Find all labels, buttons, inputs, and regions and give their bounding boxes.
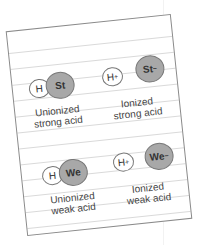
group-label: Unionized weak acid bbox=[32, 188, 114, 218]
weak-acid-anion-atom: We bbox=[57, 158, 89, 188]
group-label: Ionized strong acid bbox=[96, 93, 178, 123]
strong-acid-anion-atom: St bbox=[44, 70, 76, 100]
ionized-weak-acid-group: H+ We− Ionized weak acid bbox=[103, 140, 189, 208]
proton-atom: H+ bbox=[112, 152, 135, 173]
molecule: H+ We− bbox=[103, 140, 185, 176]
group-label: Ionized weak acid bbox=[107, 178, 189, 208]
unionized-strong-acid-group: H St Unionized strong acid bbox=[13, 67, 98, 131]
proton-atom: H+ bbox=[101, 66, 124, 87]
weak-acid-anion-atom: We− bbox=[143, 141, 175, 171]
ionized-strong-acid-group: H+ St− Ionized strong acid bbox=[92, 53, 178, 123]
notecard: H St Unionized strong acid H+ St− Ionize… bbox=[6, 14, 193, 236]
molecule: H+ St− bbox=[92, 53, 174, 89]
molecule: H St bbox=[13, 67, 95, 103]
molecule: H We bbox=[29, 154, 111, 190]
group-label: Unionized strong acid bbox=[17, 101, 99, 131]
strong-acid-anion-atom: St− bbox=[134, 54, 166, 84]
unionized-weak-acid-group: H We Unionized weak acid bbox=[29, 154, 114, 218]
